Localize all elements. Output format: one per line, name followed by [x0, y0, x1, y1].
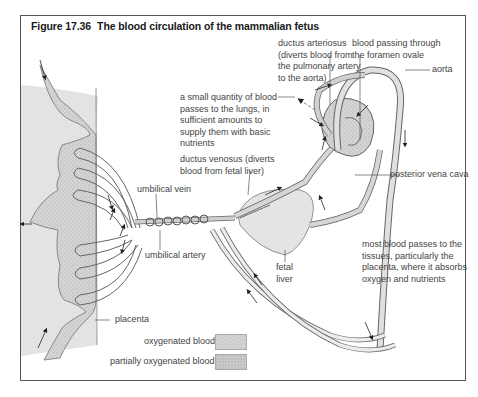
label-umbilical-vein: umbilical vein	[137, 184, 191, 196]
label-lungs: a small quantity of blood passes to the …	[180, 92, 277, 150]
label-posterior-vena-cava: posterior vena cava	[390, 169, 469, 181]
legend-swatch-partially-oxygenated	[215, 354, 247, 370]
legend-label-oxygenated: oxygenated blood	[144, 336, 215, 348]
label-fetal-liver: fetal liver	[276, 262, 293, 285]
label-tissues: most blood passes to the tissues, partic…	[362, 239, 467, 285]
legend-swatch-oxygenated	[215, 334, 247, 350]
label-ductus-venosus: ductus venosus (diverts blood from fetal…	[180, 154, 275, 177]
legend-label-partially-oxygenated: partially oxygenated blood	[110, 356, 215, 368]
label-aorta: aorta	[432, 64, 453, 76]
label-umbilical-artery: umbilical artery	[145, 250, 206, 262]
label-placenta: placenta	[115, 314, 149, 326]
umbilical-cord	[135, 215, 235, 226]
label-ductus-arteriosus: ductus arteriosus (diverts blood from th…	[278, 38, 361, 84]
label-foramen-ovale: blood passing through the foramen ovale	[352, 38, 441, 61]
